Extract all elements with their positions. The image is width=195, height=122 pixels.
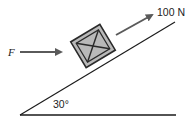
pull-force-arrow [116, 15, 152, 35]
angle-label: 30° [53, 98, 69, 110]
crate [71, 24, 116, 67]
pull-force-label: 100 N [157, 6, 185, 18]
force-f-label: F [7, 46, 15, 58]
inclined-plane-diagram: 30° F 100 N [0, 0, 195, 122]
